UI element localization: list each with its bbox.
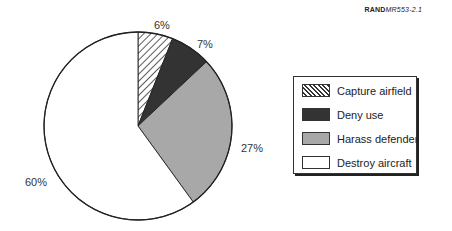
legend-label: Capture airfield xyxy=(337,85,412,97)
slice-label-capture: 6% xyxy=(154,19,170,31)
legend-label: Destroy aircraft xyxy=(337,157,412,169)
legend-item-harass-defender: Harass defender xyxy=(294,128,416,149)
pie-slices xyxy=(44,32,232,220)
white-swatch-icon xyxy=(302,156,330,169)
legend-label: Harass defender xyxy=(337,133,418,145)
slice-label-harass: 27% xyxy=(241,142,263,154)
gray-swatch-icon xyxy=(302,132,330,145)
slice-label-destroy: 60% xyxy=(25,176,47,188)
legend-label: Deny use xyxy=(337,109,383,121)
legend: Capture airfield Deny use Harass defende… xyxy=(293,76,417,174)
legend-item-deny-use: Deny use xyxy=(294,104,416,125)
dark-swatch-icon xyxy=(302,108,330,121)
slice-label-deny: 7% xyxy=(197,38,213,50)
hatch-swatch-icon xyxy=(302,84,330,97)
legend-item-destroy-aircraft: Destroy aircraft xyxy=(294,152,416,173)
legend-item-capture-airfield: Capture airfield xyxy=(294,80,416,101)
